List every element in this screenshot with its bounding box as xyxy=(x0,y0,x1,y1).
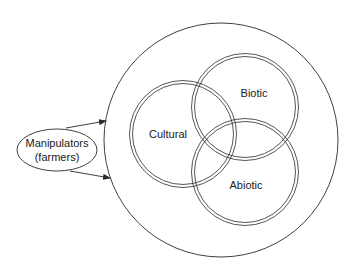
diagram-canvas: Cultural Biotic Abiotic Manipulators (fa… xyxy=(0,0,353,273)
arrow-lower xyxy=(70,171,110,178)
outer-system-circle xyxy=(104,23,338,257)
label-cultural: Cultural xyxy=(149,128,187,140)
circle-biotic xyxy=(192,54,299,161)
manipulators-ellipse xyxy=(17,129,97,171)
arrow-upper xyxy=(66,121,106,128)
label-manipulators: Manipulators xyxy=(26,137,89,149)
label-biotic: Biotic xyxy=(241,87,268,99)
circle-abiotic xyxy=(192,119,299,226)
label-abiotic: Abiotic xyxy=(229,179,263,191)
label-farmers: (farmers) xyxy=(35,151,80,163)
